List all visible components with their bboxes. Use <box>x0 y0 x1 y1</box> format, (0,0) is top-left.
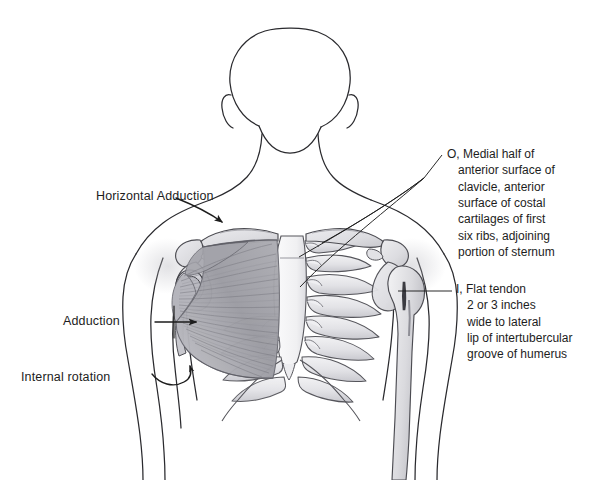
annotation-insertion-line-4: lip of intertubercular <box>456 330 588 346</box>
left-ear-outline <box>222 95 233 128</box>
annotation-origin-line-2: anterior surface of <box>447 162 587 178</box>
label-adduction: Adduction <box>63 313 120 330</box>
xiphoid-process <box>283 364 295 380</box>
origin-leader-stub <box>424 155 442 178</box>
annotation-insertion-line-3: wide to lateral <box>456 314 588 330</box>
annotation-origin-line-6: six ribs, adjoining <box>447 228 587 244</box>
jawline <box>259 126 321 153</box>
annotation-origin-line-1: O, Medial half of <box>447 146 587 162</box>
intertubercular-groove-right <box>403 282 405 310</box>
annotation-origin-line-7: portion of sternum <box>447 244 587 260</box>
right-arm-outer-contour <box>437 254 457 480</box>
neck-right <box>318 134 371 200</box>
neck-left <box>210 134 262 200</box>
annotation-origin: O, Medial half of anterior surface of cl… <box>447 146 587 260</box>
annotation-origin-line-4: surface of costal <box>447 195 587 211</box>
label-horizontal-adduction: Horizontal Adduction <box>96 188 214 205</box>
humerus-right-shading <box>409 300 410 336</box>
right-ear-outline <box>347 95 358 128</box>
annotation-insertion-line-5: groove of humerus <box>456 346 588 362</box>
annotation-insertion: I, Flat tendon 2 or 3 inches wide to lat… <box>456 281 588 363</box>
rib-4-right <box>307 295 381 317</box>
annotation-insertion-line-2: 2 or 3 inches <box>456 297 588 313</box>
left-arm-outer-contour <box>123 254 143 480</box>
head-outline <box>230 28 350 127</box>
label-internal-rotation: Internal rotation <box>21 369 110 386</box>
annotation-origin-line-5: cartilages of first <box>447 211 587 227</box>
annotation-insertion-line-1: I, Flat tendon <box>456 281 588 297</box>
internal-rotation-arrow <box>152 366 191 385</box>
rib-5-right <box>306 316 379 339</box>
annotation-origin-line-3: clavicle, anterior <box>447 179 587 195</box>
